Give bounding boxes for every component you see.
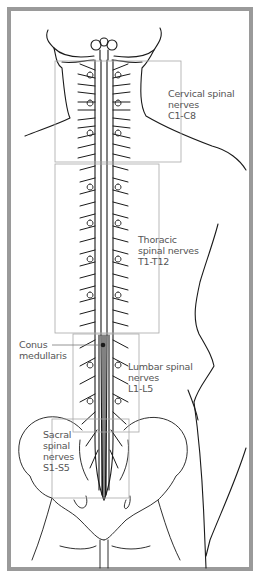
label-cervical-line-2: nerves [168, 99, 234, 110]
label-thoracic-line-1: Thoracic [138, 234, 199, 245]
label-thoracic-line-2: spinal nerves [138, 245, 199, 256]
label-sacral-line-1: Sacral [43, 429, 74, 440]
label-lumbar-line-1: Lumbar spinal [128, 361, 193, 372]
label-thoracic-line-3: T1-T12 [138, 256, 199, 267]
label-sacral-line-2: spinal [43, 440, 74, 451]
label-cervical: Cervical spinal nerves C1-C8 [168, 88, 234, 121]
label-sacral: Sacral spinal nerves S1-S5 [43, 429, 74, 473]
label-conus-line-1: Conus [19, 339, 67, 350]
label-thoracic: Thoracic spinal nerves T1-T12 [138, 234, 199, 267]
body-outline-neck-left [25, 30, 70, 136]
region-box-cervical [55, 61, 181, 162]
conus-medullaris-marker [101, 343, 106, 348]
pelvis-right [124, 417, 187, 560]
label-lumbar-line-3: L1-L5 [128, 383, 193, 394]
label-lumbar-line-2: nerves [128, 372, 193, 383]
label-cervical-line-3: C1-C8 [168, 110, 234, 121]
label-lumbar: Lumbar spinal nerves L1-L5 [128, 361, 193, 394]
label-sacral-line-3: nerves [43, 451, 74, 462]
label-conus-line-2: medullaris [19, 350, 67, 361]
label-cervical-line-1: Cervical spinal [168, 88, 234, 99]
label-conus-medullaris: Conus medullaris [19, 339, 67, 361]
label-sacral-line-4: S1-S5 [43, 462, 74, 473]
body-outline-back [194, 224, 218, 568]
spinal-cord-illustration [0, 0, 260, 577]
